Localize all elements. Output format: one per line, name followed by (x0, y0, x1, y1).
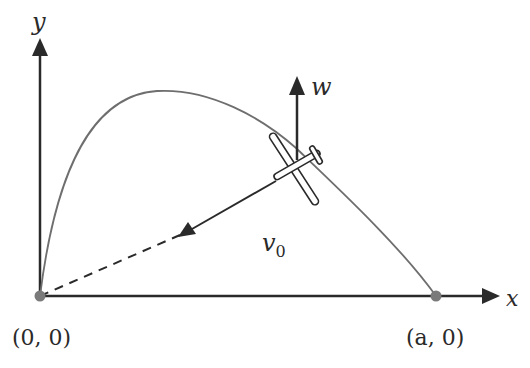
velocity-label-main: v (262, 229, 276, 257)
origin-point (35, 291, 46, 302)
wind-arrowhead (289, 76, 305, 95)
flight-path-curve (40, 91, 436, 296)
heading-dashed-line (40, 235, 180, 296)
velocity-vector (192, 181, 276, 229)
wind-label: w (311, 73, 332, 101)
airplane-icon (268, 132, 323, 206)
diagram-canvas: y x v0 w (0, 0) (a, 0) (0, 0, 530, 368)
velocity-label-subscript: 0 (276, 242, 286, 261)
x-axis-arrowhead (482, 288, 500, 304)
end-label: (a, 0) (406, 325, 464, 350)
y-axis-label: y (31, 8, 46, 36)
velocity-label: v0 (262, 229, 286, 261)
velocity-arrowhead (178, 222, 196, 237)
origin-label: (0, 0) (12, 325, 71, 350)
y-axis-arrowhead (32, 38, 48, 56)
end-point (431, 291, 442, 302)
x-axis-label: x (506, 286, 519, 311)
